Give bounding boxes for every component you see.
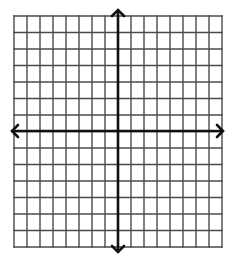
axes: [12, 10, 223, 252]
coordinate-plane: [0, 0, 235, 266]
coordinate-grid-svg: [0, 0, 235, 266]
